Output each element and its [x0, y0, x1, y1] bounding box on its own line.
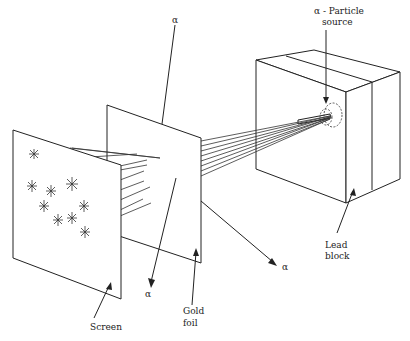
alpha-deflected-right: α [201, 201, 288, 272]
flash-icon [29, 149, 39, 159]
screen [13, 130, 121, 299]
svg-text:Screen: Screen [90, 322, 122, 332]
rutherford-diagram: α α α [0, 0, 410, 341]
svg-text:foil: foil [183, 318, 198, 328]
alpha-label-right: α [282, 262, 288, 272]
svg-text:Gold: Gold [183, 306, 204, 316]
alpha-label-down: α [145, 289, 151, 299]
svg-text:block: block [325, 251, 350, 261]
alpha-backscatter-up: α [162, 15, 178, 124]
svg-text:α - Particle: α - Particle [314, 6, 364, 16]
arrowhead-icon [148, 278, 155, 288]
alpha-label-top: α [172, 15, 178, 25]
svg-text:Lead: Lead [325, 240, 348, 250]
svg-text:source: source [322, 17, 353, 27]
